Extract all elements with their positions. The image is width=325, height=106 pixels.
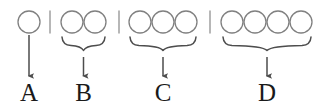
group-b [61, 11, 106, 76]
brace-d [223, 37, 311, 51]
group-label-a: A [9, 80, 49, 105]
circle [129, 11, 151, 33]
circle [84, 11, 106, 33]
circle [290, 11, 312, 33]
circle [61, 11, 83, 33]
group-label-b: B [64, 80, 104, 105]
circle [221, 11, 243, 33]
group-label-c: C [143, 80, 183, 105]
circle [267, 11, 289, 33]
group-a [18, 11, 40, 76]
brace-c [130, 37, 196, 51]
circle [244, 11, 266, 33]
circle [152, 11, 174, 33]
group-separators [50, 11, 210, 33]
group-d [221, 11, 312, 76]
group-label-d: D [247, 80, 287, 105]
group-c [129, 11, 197, 76]
circle-group-diagram: A B C D [0, 0, 325, 106]
brace-b [62, 37, 105, 51]
circle [175, 11, 197, 33]
circle [18, 11, 40, 33]
